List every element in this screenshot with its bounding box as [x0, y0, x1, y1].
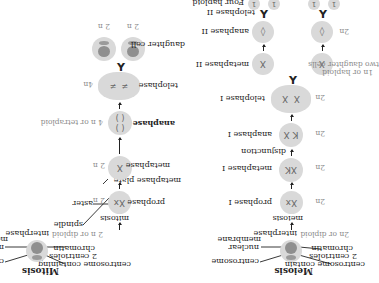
metaphase1-cell: XK [279, 158, 303, 182]
metaphase2-cell-right: X [252, 53, 274, 75]
label-chromatin: chromatin [311, 244, 353, 253]
label-chromatin: chromatin [53, 244, 95, 253]
label-mitosis: mitosis [100, 214, 129, 223]
label-metaphase2: metaphase II [196, 60, 249, 69]
label-centrosome-containing: centrosome containing [38, 260, 131, 269]
label-meiosis-interphase: interphase [254, 229, 297, 238]
telophase1-cell: X X [271, 85, 311, 113]
arrow [291, 115, 292, 121]
ploidy-prophase1: 2n [315, 197, 325, 206]
ploidy-mitosis-interphase: 2 n or diploid [52, 230, 103, 239]
fork-split: Y [289, 75, 297, 86]
ploidy-metaphase: 2 n [93, 161, 105, 170]
ploidy-anaphase1: 2n [315, 129, 325, 138]
centrosome-shape [286, 255, 296, 260]
label-anaphase2: anaphase II [202, 27, 249, 36]
label-disjunction: disjunction [241, 147, 286, 156]
label-prophase1: prophase I [229, 198, 272, 207]
label-metaphase: metaphase [126, 161, 170, 170]
mitosis-telophase-cell: ≠ ≠ [98, 72, 140, 100]
anaphase1-cell: K X [279, 123, 303, 147]
ploidy-telophase1: 2n [315, 93, 325, 102]
nucleus-shape [31, 242, 43, 254]
fork-split: Y [260, 9, 268, 20]
label-metaphase1: metaphase I [222, 164, 272, 173]
label-anaphase1: anaphase I [228, 130, 272, 139]
haploid-cell: 1 [328, 0, 340, 10]
ploidy-anaphase: 4 n or tetraploid [41, 118, 103, 127]
label-centrosome: centrosome [212, 257, 259, 266]
arrow [322, 45, 323, 51]
haploid-cell: 1 [248, 0, 260, 10]
arrow [263, 45, 264, 51]
haploid-cell: 1 [268, 0, 280, 10]
label-telophase1: telophase I [220, 94, 265, 103]
ploidy-metaphase1: 2n [315, 163, 325, 172]
label-nuclear: nuclear [228, 243, 259, 252]
ploidy-metaphase2-1: 1n or haploid [322, 68, 373, 77]
arrow [291, 223, 292, 230]
label-aster: aster [72, 199, 93, 208]
anaphase2-cell-right: ◊ [252, 21, 274, 43]
label-nuclear: nuclear [0, 243, 4, 252]
label-telophase: telophase [139, 81, 178, 90]
ploidy-metaphase2-2: two daughter cells [308, 60, 379, 69]
label-centrosome-contain: centrosome contain [285, 260, 365, 269]
fork-split: Y [319, 9, 327, 20]
daughter-cell-right [92, 37, 116, 61]
anaphase2-cell-left: ◊ [311, 21, 333, 43]
haploid-cell: 1 [308, 0, 320, 10]
label-telophase2: telophase II [207, 8, 255, 17]
mitosis-anaphase-cell: ( )( ) [108, 111, 132, 135]
label-meiosis: meiosis [273, 214, 303, 223]
label-mitosis-interphase: interphase [6, 229, 49, 238]
label-two-centrioles: 2 centrioles [49, 252, 97, 261]
centrosome-shape [32, 255, 42, 260]
ploidy-prophase: 2 n [93, 196, 105, 205]
label-spindle: spindle [54, 220, 83, 229]
arrow [119, 223, 120, 230]
ploidy-daughter-right: 2 n [98, 22, 110, 31]
arrow [119, 138, 120, 154]
mitosis-interphase-cell [26, 240, 48, 262]
arrow [119, 103, 120, 109]
ploidy-anaphase2: 2n [339, 27, 349, 36]
label-daughter-cell: daughter cell [131, 40, 185, 49]
ploidy-daughter-left: 2 n [127, 22, 139, 31]
label-two-centrioles: 2 centrioles [309, 252, 357, 261]
label-centrosome: centrosome [0, 257, 4, 266]
fork-split: Y [117, 62, 125, 73]
prophase1-cell: Xx [280, 191, 303, 214]
label-four-haploid: Four haploid [192, 0, 244, 7]
arrow [291, 150, 292, 156]
ploidy-meiosis-interphase: 2n or diploid [300, 230, 349, 239]
meiosis-interphase-cell [280, 240, 302, 262]
arrow [291, 183, 292, 189]
nucleus-shape [285, 242, 297, 254]
label-anaphase: anaphase [133, 119, 175, 128]
ploidy-telophase: 4n [83, 80, 93, 89]
label-prophase: prophase [127, 198, 165, 207]
